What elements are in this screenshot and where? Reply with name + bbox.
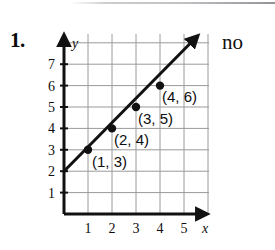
data-point-label: (1, 3)	[92, 153, 127, 170]
y-tick-label-6: 6	[48, 79, 55, 94]
y-tick-label-5: 5	[48, 100, 55, 115]
y-tick-label-7: 7	[48, 57, 55, 72]
y-tick-label-4: 4	[48, 121, 55, 136]
data-point-label: (3, 5)	[138, 110, 173, 127]
worksheet-problem-panel: 1. no	[0, 0, 275, 250]
data-point-label: (2, 4)	[114, 131, 149, 148]
x-tick-label-2: 2	[109, 221, 116, 236]
data-point-marker	[84, 146, 92, 154]
y-tick-label-1: 1	[48, 186, 55, 201]
data-point-label: (4, 6)	[162, 88, 197, 105]
x-tick-label-5: 5	[181, 221, 188, 236]
y-axis-label: y	[70, 36, 79, 51]
x-tick-label-1: 1	[85, 221, 92, 236]
coordinate-graph: 1 2 3 4 5 6 7 1 2 3 4 5 y x (1, 3)	[0, 0, 275, 250]
x-tick-label-4: 4	[157, 221, 164, 236]
x-tick-label-3: 3	[133, 221, 140, 236]
y-tick-label-2: 2	[48, 164, 55, 179]
graph-svg: 1 2 3 4 5 6 7 1 2 3 4 5 y x (1, 3)	[0, 0, 275, 250]
y-tick-label-3: 3	[48, 143, 55, 158]
x-axis-label: x	[201, 221, 209, 236]
